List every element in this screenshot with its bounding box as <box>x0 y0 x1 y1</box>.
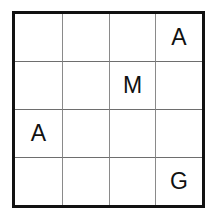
cell-r1-c1[interactable] <box>15 14 63 62</box>
cell-r3-c1[interactable]: A <box>15 110 63 158</box>
cell-r1-c4[interactable]: A <box>156 14 202 62</box>
cell-r2-c2[interactable] <box>63 62 110 110</box>
cell-r4-c3[interactable] <box>110 158 156 205</box>
cell-r3-c4[interactable] <box>156 110 202 158</box>
cell-r4-c1[interactable] <box>15 158 63 205</box>
cell-r1-c3[interactable] <box>110 14 156 62</box>
cell-r2-c4[interactable] <box>156 62 202 110</box>
cell-r3-c3[interactable] <box>110 110 156 158</box>
cell-r1-c2[interactable] <box>63 14 110 62</box>
cell-r4-c2[interactable] <box>63 158 110 205</box>
cell-r4-c4[interactable]: G <box>156 158 202 205</box>
puzzle-grid: A M A G <box>12 11 205 208</box>
cell-r2-c3[interactable]: M <box>110 62 156 110</box>
cell-r3-c2[interactable] <box>63 110 110 158</box>
cell-r2-c1[interactable] <box>15 62 63 110</box>
